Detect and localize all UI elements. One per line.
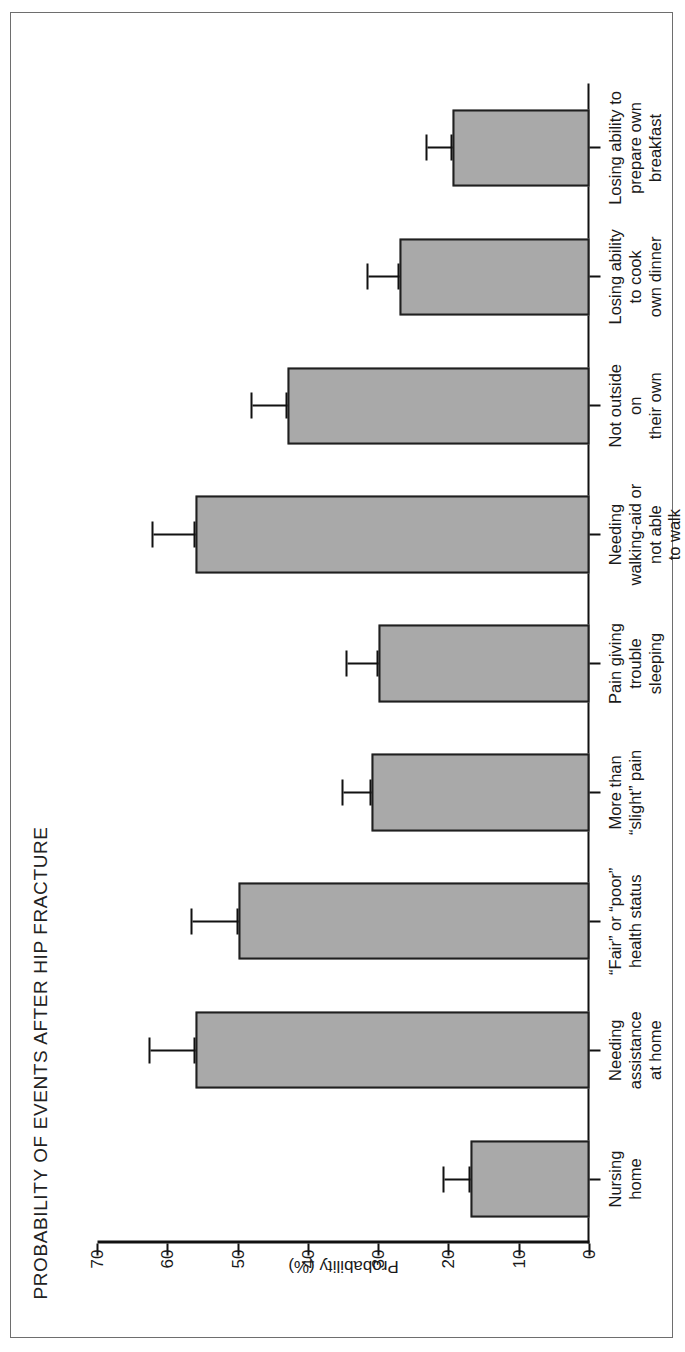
category-tick — [589, 1049, 600, 1051]
bar — [195, 495, 589, 572]
error-bar-cap-upper — [425, 134, 427, 160]
bar-group: More than “slight” pain — [97, 753, 589, 830]
bar-group: Losing ability to prepare own breakfast — [97, 109, 589, 186]
error-bar — [444, 1178, 470, 1180]
plot-area: Probability (%) 010203040506070 Nursing … — [97, 83, 589, 1243]
bar — [452, 109, 589, 186]
y-tick-label: 40 — [298, 1249, 318, 1268]
bar — [287, 367, 589, 444]
y-tick-label: 30 — [368, 1249, 388, 1268]
category-label: Not outside on their own — [605, 330, 664, 480]
category-label: Losing ability to cook own dinner — [605, 201, 664, 351]
bar-group: Needing assistance at home — [97, 1011, 589, 1088]
bar — [195, 1011, 589, 1088]
error-bar-cap-lower — [369, 779, 371, 805]
error-bar-cap-upper — [341, 779, 343, 805]
bar — [470, 1140, 589, 1217]
y-tick-label: 50 — [228, 1249, 248, 1268]
error-bar-cap-upper — [148, 1037, 150, 1063]
error-bar-cap-upper — [442, 1166, 444, 1192]
y-tick-label: 0 — [579, 1249, 599, 1258]
bar-chart: PROBABILITY OF EVENTS AFTER HIP FRACTURE… — [11, 13, 674, 1339]
category-tick — [589, 404, 600, 406]
error-bar — [427, 146, 452, 148]
bar — [238, 882, 589, 959]
error-bar — [150, 1049, 196, 1051]
error-bar — [368, 275, 400, 277]
y-tick-label: 60 — [157, 1249, 177, 1268]
error-bar-cap-lower — [236, 908, 238, 934]
category-tick — [589, 533, 600, 535]
bar-group: Nursing home — [97, 1140, 589, 1217]
figure-container: PROBABILITY OF EVENTS AFTER HIP FRACTURE… — [0, 0, 685, 1352]
y-tick-label: 10 — [509, 1249, 529, 1268]
error-bar-cap-upper — [345, 650, 347, 676]
category-label: Pain giving trouble sleeping — [605, 588, 664, 738]
error-bar-cap-lower — [285, 392, 287, 418]
y-tick-label: 70 — [87, 1249, 107, 1268]
category-tick — [589, 146, 600, 148]
chart-title: PROBABILITY OF EVENTS AFTER HIP FRACTURE — [29, 826, 51, 1299]
error-bar-cap-lower — [193, 1037, 195, 1063]
category-tick — [589, 791, 600, 793]
error-bar-cap-upper — [151, 521, 153, 547]
category-tick — [589, 920, 600, 922]
error-bar-cap-lower — [450, 134, 452, 160]
bar — [378, 624, 589, 701]
category-label: Needing walking-aid or not able to walk — [605, 459, 684, 609]
bar-group: Pain giving trouble sleeping — [97, 624, 589, 701]
error-bar-cap-lower — [468, 1166, 470, 1192]
error-bar-cap-upper — [366, 263, 368, 289]
category-label: Losing ability to prepare own breakfast — [605, 72, 664, 222]
category-label: Nursing home — [605, 1104, 645, 1254]
category-tick — [589, 662, 600, 664]
category-label: More than “slight” pain — [605, 717, 645, 867]
error-bar — [252, 404, 287, 406]
bar — [371, 753, 589, 830]
error-bar-cap-lower — [376, 650, 378, 676]
error-bar — [153, 533, 195, 535]
error-bar-cap-upper — [190, 908, 192, 934]
error-bar-cap-lower — [193, 521, 195, 547]
error-bar-cap-lower — [397, 263, 399, 289]
bar-group: Losing ability to cook own dinner — [97, 238, 589, 315]
y-axis-line — [97, 1241, 589, 1244]
category-tick — [589, 1178, 600, 1180]
bar — [399, 238, 589, 315]
category-tick — [589, 275, 600, 277]
category-label: Needing assistance at home — [605, 975, 664, 1125]
error-bar — [343, 791, 371, 793]
error-bar — [192, 920, 238, 922]
error-bar-cap-upper — [250, 392, 252, 418]
category-label: “Fair” or “poor” health status — [605, 846, 645, 996]
bar-group: Needing walking-aid or not able to walk — [97, 495, 589, 572]
y-tick-label: 20 — [438, 1249, 458, 1268]
error-bar — [347, 662, 379, 664]
bar-group: “Fair” or “poor” health status — [97, 882, 589, 959]
bar-group: Not outside on their own — [97, 367, 589, 444]
